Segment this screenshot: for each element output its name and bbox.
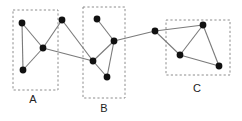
graph-edge (22, 23, 23, 70)
graph-node-c3 (216, 63, 223, 70)
edge-layer (22, 19, 219, 77)
graph-node-b2 (111, 38, 118, 45)
graph-node-a3 (20, 67, 27, 74)
graph-node-c1 (200, 22, 207, 29)
graph-node-a1 (19, 20, 26, 27)
graph-edge (203, 25, 219, 66)
cluster-box-b (83, 7, 125, 98)
graph-edge (180, 55, 219, 66)
graph-edge (43, 20, 62, 48)
graph-edge (155, 25, 203, 31)
graph-edge (97, 19, 114, 41)
graph-edge (23, 48, 43, 70)
graph-node-n1 (59, 17, 66, 24)
cluster-label-b: B (100, 102, 107, 114)
node-layer (19, 16, 223, 81)
graph-edge (114, 31, 155, 41)
graph-edge (155, 31, 180, 55)
graph-node-a2 (40, 45, 47, 52)
graph-edge (62, 20, 93, 61)
graph-edge (180, 25, 203, 55)
cluster-label-a: A (29, 93, 37, 105)
graph-edge (22, 23, 43, 48)
cluster-label-c: C (193, 82, 201, 94)
graph-node-b4 (104, 74, 111, 81)
graph-edge (43, 48, 93, 61)
graph-node-c0 (152, 28, 159, 35)
graph-node-b3 (90, 58, 97, 65)
graph-node-b1 (94, 16, 101, 23)
graph-figure: ABC (0, 0, 242, 121)
graph-canvas: ABC (0, 0, 242, 121)
graph-node-c2 (177, 52, 184, 59)
